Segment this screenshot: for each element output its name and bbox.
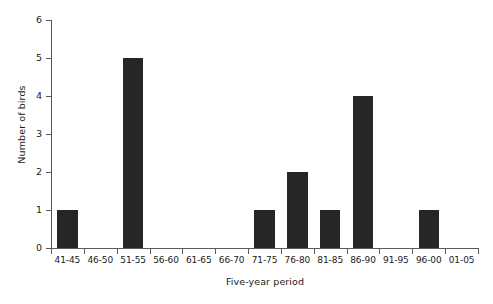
x-tick-label: 81-85 [314, 256, 347, 266]
x-axis-title: Five-year period [51, 276, 479, 287]
y-tick-label: 6 [22, 15, 42, 25]
y-tick-label: 1 [22, 205, 42, 215]
bar [353, 96, 373, 248]
x-tick-label: 41-45 [51, 256, 84, 266]
y-tick-label: 3 [22, 129, 42, 139]
y-tick-label-wrap: 6 [22, 15, 42, 25]
x-tick-mark [347, 249, 348, 254]
y-tick-label-wrap: 4 [22, 91, 42, 101]
x-tick-label: 71-75 [248, 256, 281, 266]
x-axis-line [51, 248, 479, 249]
x-tick-label: 51-55 [117, 256, 150, 266]
bar [123, 58, 143, 248]
y-tick-label-wrap: 1 [22, 205, 42, 215]
x-tick-mark [215, 249, 216, 254]
plot-area [51, 20, 478, 248]
x-tick-mark [478, 249, 479, 254]
x-tick-mark [117, 249, 118, 254]
y-tick-label: 0 [22, 243, 42, 253]
x-tick-mark [182, 249, 183, 254]
x-tick-mark [314, 249, 315, 254]
x-tick-mark [51, 249, 52, 254]
x-tick-label: 86-90 [347, 256, 380, 266]
x-tick-label: 56-60 [150, 256, 183, 266]
x-tick-label: 01-05 [445, 256, 478, 266]
y-tick-label-wrap: 2 [22, 167, 42, 177]
x-tick-mark [379, 249, 380, 254]
x-tick-label: 66-70 [215, 256, 248, 266]
y-tick-label: 5 [22, 53, 42, 63]
y-tick-label-wrap: 5 [22, 53, 42, 63]
y-tick-label: 2 [22, 167, 42, 177]
x-tick-mark [150, 249, 151, 254]
y-tick-label-wrap: 0 [22, 243, 42, 253]
x-tick-label: 96-00 [412, 256, 445, 266]
x-tick-label: 61-65 [182, 256, 215, 266]
y-tick-label-wrap: 3 [22, 129, 42, 139]
x-tick-label: 91-95 [379, 256, 412, 266]
y-tick-label: 4 [22, 91, 42, 101]
bar [57, 210, 77, 248]
x-tick-label: 46-50 [84, 256, 117, 266]
x-tick-mark [84, 249, 85, 254]
bar [320, 210, 340, 248]
bar [419, 210, 439, 248]
x-tick-mark [281, 249, 282, 254]
bar-chart: Number of birds 0123456 41-4546-5051-555… [0, 0, 493, 304]
x-tick-label: 76-80 [281, 256, 314, 266]
bar [254, 210, 274, 248]
x-tick-mark [445, 249, 446, 254]
x-tick-mark [248, 249, 249, 254]
bar [287, 172, 307, 248]
x-tick-mark [412, 249, 413, 254]
